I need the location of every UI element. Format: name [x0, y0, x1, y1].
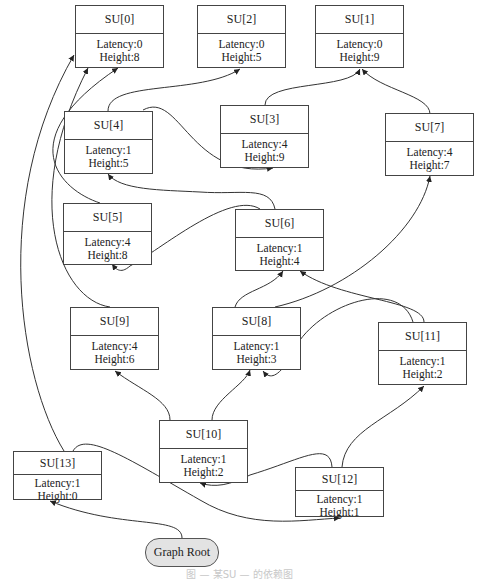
edge-root-su13: [50, 501, 182, 538]
node-su9: SU[9] Latency:4Height:6: [70, 307, 159, 370]
node-latency: Latency:1: [213, 340, 300, 353]
node-height: Height:0: [14, 490, 101, 503]
node-su7: SU[7] Latency:4Height:7: [385, 113, 474, 176]
node-latency: Latency:4: [386, 146, 473, 159]
node-title: SU[6]: [236, 210, 323, 238]
node-latency: Latency:0: [198, 38, 285, 51]
node-height: Height:9: [221, 151, 308, 164]
node-height: Height:8: [64, 249, 151, 262]
node-title: SU[5]: [64, 204, 151, 232]
node-su12: SU[12] Latency:1Height:1: [295, 467, 384, 517]
node-title: SU[13]: [14, 452, 101, 475]
edge-su7-su1: [362, 69, 430, 114]
node-title: SU[2]: [198, 6, 285, 34]
edge-su10-su8: [212, 370, 250, 420]
node-latency: Latency:1: [379, 355, 466, 368]
node-su6: SU[6] Latency:1Height:4: [235, 209, 324, 271]
node-title: SU[9]: [71, 308, 158, 336]
node-latency: Latency:1: [65, 144, 152, 157]
node-title: SU[10]: [160, 421, 247, 449]
node-height: Height:2: [379, 368, 466, 381]
node-title: SU[4]: [65, 112, 152, 140]
node-title: SU[11]: [379, 323, 466, 351]
node-latency: Latency:4: [221, 138, 308, 151]
node-title: SU[12]: [296, 468, 383, 491]
node-height: Height:8: [76, 51, 163, 64]
edge-su11-su6: [300, 271, 424, 322]
node-su10: SU[10] Latency:1Height:2: [159, 420, 248, 483]
node-height: Height:2: [160, 466, 247, 479]
node-su8: SU[8] Latency:1Height:3: [212, 307, 301, 370]
node-height: Height:3: [213, 353, 300, 366]
node-su0: SU[0] Latency:0Height:8: [75, 5, 164, 68]
edge-su3-su1: [265, 69, 360, 105]
node-su5: SU[5] Latency:4Height:8: [63, 203, 152, 265]
node-latency: Latency:0: [316, 38, 403, 51]
node-latency: Latency:1: [296, 493, 383, 506]
node-title: SU[3]: [221, 106, 308, 134]
node-su13: SU[13] Latency:1Height:0: [13, 451, 102, 500]
node-su11: SU[11] Latency:1Height:2: [378, 322, 467, 385]
node-su4: SU[4] Latency:1Height:5: [64, 111, 153, 174]
figure-caption: 图 — 某SU — 的依赖图: [0, 566, 479, 580]
node-su3: SU[3] Latency:4Height:9: [220, 105, 309, 168]
node-title: SU[8]: [213, 308, 300, 336]
node-su2: SU[2] Latency:0Height:5: [197, 5, 286, 68]
node-height: Height:6: [71, 353, 158, 366]
node-latency: Latency:4: [64, 236, 151, 249]
graph-root-label: Graph Root: [154, 545, 210, 559]
graph-root-node: Graph Root: [145, 538, 219, 567]
node-latency: Latency:4: [71, 340, 158, 353]
node-title: SU[1]: [316, 6, 403, 34]
node-latency: Latency:1: [14, 477, 101, 490]
node-latency: Latency:1: [236, 242, 323, 255]
edge-su10-su9: [115, 371, 170, 420]
node-height: Height:4: [236, 255, 323, 268]
node-title: SU[0]: [76, 6, 163, 34]
node-latency: Latency:0: [76, 38, 163, 51]
edge-su9-su0: [52, 68, 110, 307]
node-height: Height:9: [316, 51, 403, 64]
node-su1: SU[1] Latency:0Height:9: [315, 5, 404, 68]
edge-su12-su11: [342, 386, 424, 467]
node-height: Height:5: [65, 157, 152, 170]
node-height: Height:7: [386, 159, 473, 172]
node-latency: Latency:1: [160, 453, 247, 466]
node-height: Height:1: [296, 506, 383, 519]
node-title: SU[7]: [386, 114, 473, 142]
node-height: Height:5: [198, 51, 285, 64]
edge-su8-su6: [235, 271, 283, 307]
